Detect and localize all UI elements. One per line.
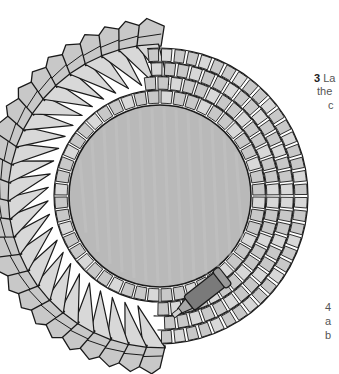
mosaic-tile [182, 79, 195, 94]
mosaic-tile [294, 184, 307, 195]
mosaic-tile [280, 184, 293, 195]
mosaic-tile [189, 311, 202, 326]
mosaic-tile [161, 91, 173, 104]
mosaic-tile [174, 329, 186, 343]
mosaic-tile [161, 330, 172, 343]
mosaic-tile [280, 197, 293, 208]
mosaic-tile [266, 184, 279, 195]
mosaic-tile [173, 92, 186, 106]
mosaic-tile [275, 222, 290, 235]
mosaic-tile [56, 209, 70, 222]
mosaic-tile [174, 50, 186, 64]
mosaic-tile [161, 49, 172, 62]
mosaic-tile [252, 197, 265, 209]
folded-tile-tab [137, 18, 164, 47]
mosaic-tile [186, 52, 199, 66]
mosaic-tile [294, 197, 307, 208]
mosaic-tile [250, 209, 264, 222]
step-3-caption: 3 La [314, 71, 335, 85]
mosaic-tile [177, 314, 189, 328]
mosaic-tile [134, 286, 147, 300]
mosaic-tile [293, 170, 307, 182]
step-4-caption: 4 [325, 300, 331, 314]
mosaic-tile [290, 222, 304, 235]
mosaic-tile [261, 157, 276, 171]
mosaic-tile [177, 64, 189, 78]
mosaic-tile [275, 157, 290, 170]
mosaic-tile [144, 77, 156, 90]
step-4-text-line2: b [325, 328, 331, 342]
mosaic-tile [186, 326, 199, 340]
mosaic-tile [290, 157, 304, 170]
mosaic-tile [55, 183, 68, 195]
mosaic-tile [56, 170, 70, 183]
mosaic-tile [170, 77, 182, 91]
step-3-text-line3: c [328, 98, 334, 112]
step-4-number: 4 [325, 301, 331, 313]
step-3-number: 3 [314, 72, 320, 84]
mosaic-tile [252, 183, 265, 195]
mosaic-tile [147, 288, 159, 301]
mosaic-tile [264, 209, 278, 221]
mosaic-tile [55, 197, 68, 209]
mosaic-tile [189, 67, 202, 82]
mosaic-tile [151, 63, 162, 76]
mosaic-tile [293, 210, 307, 222]
step-4-text-line1: a [325, 314, 331, 328]
mosaic-tile [266, 197, 279, 208]
mosaic-tile [278, 170, 292, 182]
mosaic-tile [158, 302, 169, 315]
step-3-text-line2: the [317, 84, 332, 98]
mosaic-tile [147, 91, 159, 104]
mosaic-tile [278, 210, 292, 222]
step-3-text-line1: La [323, 72, 335, 84]
mosaic-tile [161, 288, 173, 301]
mosaic-tile [264, 170, 278, 182]
mosaic-tile [158, 77, 169, 90]
mosaic-tile [134, 92, 147, 106]
mosaic-mirror-illustration [0, 0, 339, 374]
mosaic-tile [164, 316, 175, 329]
mosaic-tile [148, 49, 159, 62]
mosaic-tile [250, 170, 264, 183]
mosaic-tile [164, 63, 175, 76]
